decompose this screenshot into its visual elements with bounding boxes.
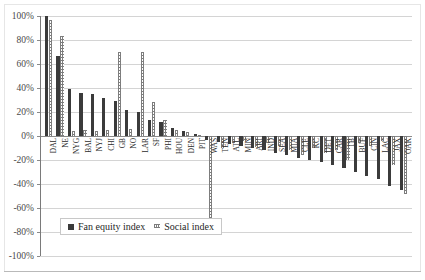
gridline--100 (40, 256, 412, 257)
y-axis-tick-label: -80% (13, 227, 34, 237)
legend-swatch-social-icon (154, 224, 160, 228)
x-axis-label-ari: ARI (255, 138, 264, 151)
bar-social-nyj (95, 131, 98, 136)
x-axis-label-cle: CLE (301, 138, 310, 152)
y-axis-tick-label: 40% (17, 83, 34, 93)
bar-group (308, 16, 319, 256)
x-axis-label-cin: CIN (370, 138, 379, 151)
bar-group (331, 16, 342, 256)
x-axis-label-chi: CHI (107, 138, 116, 151)
y-axis-tick-label: 100% (12, 11, 34, 21)
bar-fan-nyg (68, 89, 71, 136)
x-axis-label-was: WAS (210, 138, 219, 154)
x-axis-label-car: CAR (335, 138, 344, 153)
bar-group (285, 16, 296, 256)
x-axis-label-sea: SEA (278, 138, 287, 152)
x-axis-label-sf: SF (152, 138, 161, 146)
bar-group (262, 16, 273, 256)
y-axis-tick-label: 20% (17, 107, 34, 117)
bar-group (45, 16, 56, 256)
bar-fan-no (125, 110, 128, 136)
bar-social-ne (60, 36, 63, 136)
bar-social-nyg (72, 131, 75, 136)
bar-group (320, 16, 331, 256)
bar-social-den (186, 132, 189, 136)
x-axis-label-buf: BUF (358, 138, 367, 152)
x-axis-label-pit: PIT (198, 138, 207, 149)
bar-group (274, 16, 285, 256)
x-axis-label-nyg: NYG (72, 138, 81, 154)
bar-social-hou (175, 130, 178, 136)
bar-fan-phi (159, 122, 162, 136)
x-axis-label-gb: GB (118, 138, 127, 148)
x-axis-label-ne: NE (61, 138, 70, 148)
bar-fan-den (182, 131, 185, 136)
bar-fan-nyj (91, 94, 94, 136)
x-axis-label-den: DEN (187, 138, 196, 153)
x-axis-label-det: DET (324, 138, 333, 152)
bar-social-pit (198, 135, 201, 136)
x-axis-label-nyj: NYJ (95, 138, 104, 152)
bar-social-no (129, 129, 132, 136)
bar-social-chi (106, 130, 109, 136)
x-axis-label-bal: BAL (84, 138, 93, 153)
chart-legend: Fan equity index Social index (60, 218, 222, 235)
bar-social-gb (118, 52, 121, 136)
bar-fan-bal (79, 93, 82, 136)
y-axis-tick-label: -40% (13, 179, 34, 189)
bar-fan-pit (194, 134, 197, 136)
chart-container: 100%80%60%40%20%0%-20%-40%-60%-80%-100% … (0, 0, 425, 280)
bar-social-sf (152, 102, 155, 136)
bar-group (342, 16, 353, 256)
x-axis-label-oak: OAK (404, 138, 413, 154)
bar-group (365, 16, 376, 256)
bar-fan-ne (56, 56, 59, 136)
x-axis-label-jax: JAX (393, 138, 402, 152)
bar-fan-gb (114, 101, 117, 136)
x-axis-labels: DALNENYGBALNYJCHIGBNOLARSFPHIHOUDENPITWA… (41, 138, 412, 198)
bar-group (388, 16, 399, 256)
bar-fan-lar (137, 112, 140, 136)
bar-social-lar (141, 52, 144, 136)
x-axis-label-kc: KC (312, 138, 321, 148)
x-axis-label-tb: TB (347, 138, 356, 147)
bar-group (297, 16, 308, 256)
x-axis-label-min: MIN (244, 138, 253, 152)
bar-fan-hou (171, 128, 174, 136)
bar-group (239, 16, 250, 256)
x-axis-label-hou: HOU (175, 138, 184, 154)
y-axis-tick-mark (37, 256, 40, 257)
y-axis-labels: 100%80%60%40%20%0%-20%-40%-60%-80%-100% (0, 0, 36, 280)
bar-group (377, 16, 388, 256)
x-axis-label-lar: LAR (141, 138, 150, 153)
legend-label-social-index: Social index (164, 221, 214, 232)
y-axis-tick-label: -60% (13, 203, 34, 213)
x-axis-label-atl: ATL (232, 138, 241, 152)
y-axis-tick-label: 80% (17, 35, 34, 45)
legend-label-fan-equity-index: Fan equity index (78, 221, 145, 232)
bar-group (251, 16, 262, 256)
bar-group (354, 16, 365, 256)
legend-swatch-fan-equity-icon (68, 224, 74, 230)
bar-social-phi (163, 120, 166, 136)
bar-fan-chi (102, 98, 105, 136)
x-axis-label-mia: MIA (290, 138, 299, 152)
x-axis-label-ind: IND (267, 138, 276, 151)
legend-item-fan-equity-index: Fan equity index (68, 221, 145, 232)
bar-social-dal (49, 20, 52, 136)
x-axis-label-lac: LAC (381, 138, 390, 153)
y-axis-tick-label: 0% (21, 131, 34, 141)
chart-bottom-rule (4, 271, 421, 272)
legend-item-social-index: Social index (154, 221, 214, 232)
bar-fan-dal (45, 16, 48, 136)
y-axis-tick-label: -100% (9, 251, 34, 261)
bar-group (400, 16, 411, 256)
bar-fan-sf (148, 120, 151, 136)
x-axis-label-dal: DAL (49, 138, 58, 153)
y-axis-tick-label: -20% (13, 155, 34, 165)
x-axis-label-phi: PHI (164, 138, 173, 150)
x-axis-label-ten: TEN (221, 138, 230, 152)
y-axis-tick-label: 60% (17, 59, 34, 69)
x-axis-label-no: NO (129, 138, 138, 149)
bar-social-bal (83, 130, 86, 136)
